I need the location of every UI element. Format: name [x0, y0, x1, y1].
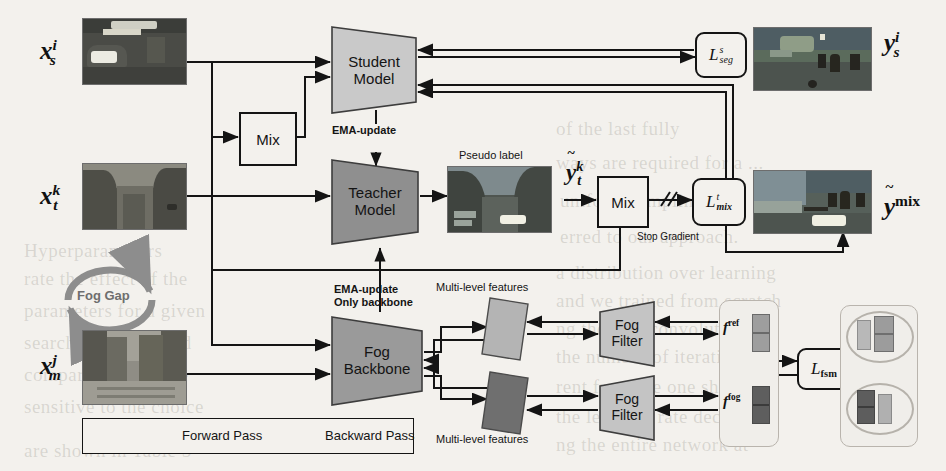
figure-canvas: of the last fullyways are required for a…	[0, 0, 946, 471]
thumbnail-mapped-image	[82, 330, 187, 405]
mix-box-left[interactable]: Mix	[239, 112, 297, 166]
feature-fog-swatch	[752, 386, 770, 424]
teacher-model-line2: Model	[348, 202, 401, 219]
feature-ref-swatch	[752, 314, 770, 352]
teacher-model-line1: Teacher	[348, 185, 401, 202]
thumbnail-source-label	[753, 27, 872, 91]
fog-filter-bottom[interactable]: Fog Filter	[598, 374, 656, 442]
thumbnail-mixed-label	[753, 170, 872, 234]
loss-mix-box[interactable]: L t mix	[692, 178, 746, 226]
annotation-multi-level-features-top: Multi-level features	[436, 281, 528, 293]
fog-filter-top[interactable]: Fog Filter	[598, 300, 656, 368]
mix-box-right[interactable]: Mix	[597, 176, 649, 228]
loss-mix-base: L	[706, 192, 715, 212]
annotation-ema-update-backbone-line2: Only backbone	[334, 296, 413, 308]
feature-plate-bottom	[480, 370, 530, 436]
annotation-stop-gradient: Stop Gradient	[637, 231, 699, 242]
thumbnail-target-image	[82, 163, 187, 230]
fog-backbone[interactable]: Fog Backbone	[330, 315, 424, 407]
feature-ref-label: fref	[723, 318, 739, 336]
fog-backbone-line2: Backbone	[344, 361, 411, 378]
feature-fog-label: ffog	[723, 392, 740, 410]
fog-filter-bottom-line1: Fog	[611, 392, 642, 408]
annotation-multi-level-features-bottom: Multi-level features	[436, 433, 528, 445]
distribution-bottom-bar-a	[857, 390, 875, 424]
mix-box-right-label: Mix	[611, 194, 634, 211]
feature-plate-top	[480, 296, 530, 362]
label-target-image: xkt	[40, 181, 58, 214]
fog-backbone-line1: Fog	[344, 344, 411, 361]
background-text-line: Hyperparameters	[24, 240, 162, 262]
legend-backward-label: Backward Pass	[325, 428, 415, 443]
annotation-ema-update-student: EMA-update	[332, 124, 396, 136]
loss-fsm-base: L	[811, 359, 820, 379]
label-pseudo-label: ~ ykt	[566, 158, 581, 189]
background-text-line: parameters for a given	[24, 300, 205, 322]
loss-seg-box[interactable]: L s seg	[695, 32, 747, 78]
label-mixed-label: ~ ymix	[884, 192, 920, 221]
loss-seg-sub: seg	[720, 55, 733, 65]
distribution-top-bar-b	[874, 316, 894, 352]
thumbnail-source-image	[82, 18, 187, 85]
distribution-bottom-bar-b	[878, 394, 892, 424]
stop-gradient-slash	[661, 192, 677, 206]
annotation-pseudo-label: Pseudo label	[459, 149, 523, 161]
label-source-image: xis	[40, 36, 56, 69]
background-text-line: a distribution over learning	[556, 262, 776, 284]
background-text-line: of the last fully	[556, 118, 680, 140]
student-model[interactable]: Student Model	[330, 25, 418, 115]
label-mapped-image: xjm	[40, 351, 61, 384]
annotation-fog-gap: Fog Gap	[77, 288, 130, 303]
background-text-line: rate the effect of the	[24, 268, 188, 290]
distribution-top-bar-a	[857, 320, 871, 350]
thumbnail-pseudo-label	[447, 166, 552, 233]
fog-filter-bottom-line2: Filter	[611, 408, 642, 424]
mix-box-left-label: Mix	[256, 131, 279, 148]
annotation-ema-update-backbone-line1: EMA-update	[334, 283, 398, 295]
loss-seg-base: L	[709, 45, 718, 65]
background-text-line: ways are required for a ...	[556, 152, 764, 174]
label-source-label: yis	[884, 28, 899, 61]
loss-fsm-sub: fsm	[821, 368, 837, 388]
loss-mix-sub: mix	[716, 202, 732, 212]
student-model-line1: Student	[348, 54, 400, 71]
fog-filter-top-line2: Filter	[611, 334, 642, 350]
legend-forward-label: Forward Pass	[182, 428, 262, 443]
student-model-line2: Model	[348, 71, 400, 88]
fog-filter-top-line1: Fog	[611, 318, 642, 334]
teacher-model[interactable]: Teacher Model	[330, 158, 420, 246]
